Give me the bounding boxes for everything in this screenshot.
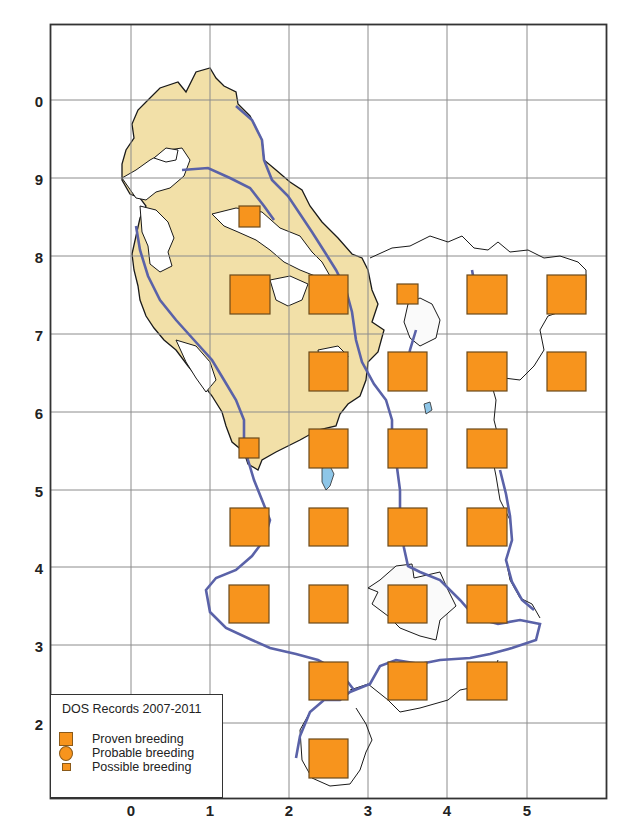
y-axis-label: 0 — [35, 93, 43, 110]
record-proven — [309, 739, 348, 778]
x-axis-label: 2 — [285, 802, 293, 819]
legend-label: Probable breeding — [92, 746, 194, 760]
y-axis-label: 4 — [35, 560, 43, 577]
legend-item-possible: Possible breeding — [59, 760, 191, 774]
record-proven — [467, 662, 507, 700]
small-square-icon — [59, 760, 73, 774]
legend-label: Proven breeding — [92, 732, 184, 746]
record-proven — [230, 275, 270, 314]
y-axis-label: 8 — [35, 249, 43, 266]
record-proven — [388, 429, 427, 468]
record-proven — [388, 352, 427, 391]
x-axis-label: 5 — [523, 802, 531, 819]
record-proven — [309, 508, 348, 546]
record-possible — [239, 438, 259, 458]
legend-item-proven: Proven breeding — [59, 732, 184, 746]
record-proven — [309, 662, 348, 700]
y-axis-label: 5 — [35, 483, 43, 500]
record-proven — [309, 275, 348, 314]
x-axis-label: 1 — [206, 802, 214, 819]
circle-icon — [59, 746, 73, 760]
lake — [322, 466, 334, 490]
record-possible — [397, 284, 418, 304]
record-proven — [467, 508, 507, 546]
legend-item-probable: Probable breeding — [59, 746, 194, 760]
record-possible — [239, 206, 260, 227]
record-proven — [467, 275, 507, 314]
x-axis-label: 0 — [127, 802, 135, 819]
record-proven — [467, 352, 507, 391]
legend-title: DOS Records 2007-2011 — [62, 702, 201, 716]
y-axis-label: 2 — [35, 716, 43, 733]
record-proven — [388, 662, 427, 700]
record-proven — [547, 275, 586, 314]
y-axis-label: 7 — [35, 327, 43, 344]
record-proven — [467, 585, 507, 623]
record-proven — [309, 429, 348, 468]
record-proven — [467, 429, 507, 468]
town-boundary — [404, 298, 440, 346]
record-proven — [309, 585, 348, 623]
x-axis-label: 4 — [443, 802, 451, 819]
record-proven — [547, 352, 586, 391]
record-proven — [309, 352, 348, 391]
x-axis-label: 3 — [364, 802, 372, 819]
y-axis-label: 3 — [35, 638, 43, 655]
map-legend: DOS Records 2007-2011 Proven breeding Pr… — [50, 694, 223, 798]
large-square-icon — [59, 732, 73, 746]
record-proven — [388, 585, 427, 623]
record-proven — [388, 508, 427, 546]
record-proven — [229, 585, 269, 623]
legend-label: Possible breeding — [92, 760, 191, 774]
y-axis-label: 6 — [35, 405, 43, 422]
y-axis-label: 9 — [35, 171, 43, 188]
record-proven — [230, 508, 269, 546]
